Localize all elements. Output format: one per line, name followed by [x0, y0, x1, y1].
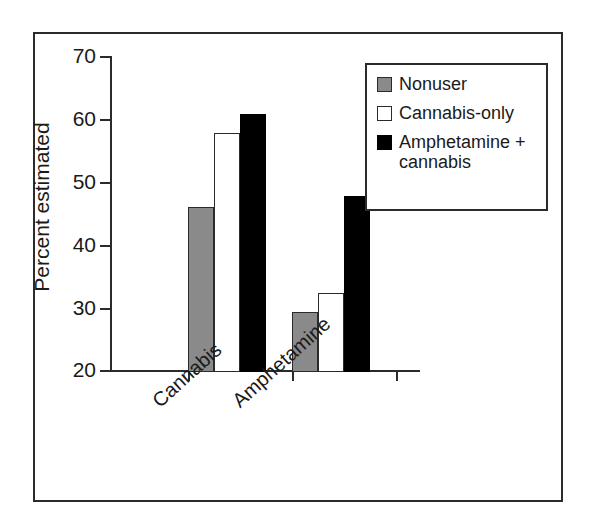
y-tick-label-50: 50 [50, 171, 96, 192]
y-tick-30 [100, 308, 110, 310]
y-tick-40 [100, 245, 110, 247]
y-axis-title: Percent estimated [30, 97, 54, 317]
y-tick-label-20: 20 [50, 359, 96, 380]
y-axis-line [110, 56, 112, 372]
chart-legend: Nonuser Cannabis-only Amphetamine + cann… [365, 63, 548, 211]
legend-label-nonuser: Nonuser [399, 74, 467, 94]
y-tick-label-70: 70 [50, 45, 96, 66]
y-tick-70 [100, 56, 110, 58]
bar-cannabis-amphetamine-cannabis [240, 114, 266, 372]
y-tick-60 [100, 119, 110, 121]
legend-label-cannabis-only: Cannabis-only [399, 103, 514, 123]
y-tick-label-40: 40 [50, 234, 96, 255]
y-tick-label-60: 60 [50, 108, 96, 129]
y-tick-label-30: 30 [50, 297, 96, 318]
y-tick-50 [100, 182, 110, 184]
legend-swatch-amphetamine-cannabis-icon [377, 135, 392, 150]
bar-cannabis-cannabis-only [214, 133, 240, 372]
legend-label-amphetamine-cannabis: Amphetamine + cannabis [399, 132, 538, 172]
legend-swatch-cannabis-only-icon [377, 106, 392, 121]
bar-chart: 70 60 50 40 30 20 Percent estimated Cann… [0, 0, 596, 531]
legend-swatch-nonuser-icon [377, 77, 392, 92]
y-tick-20 [100, 370, 110, 372]
bar-amphetamine-amphetamine-cannabis [344, 196, 370, 372]
x-tick-right-end [396, 370, 398, 381]
legend-item-nonuser: Nonuser [377, 74, 538, 94]
legend-item-cannabis-only: Cannabis-only [377, 103, 538, 123]
legend-item-amphetamine-cannabis: Amphetamine + cannabis [377, 132, 538, 172]
